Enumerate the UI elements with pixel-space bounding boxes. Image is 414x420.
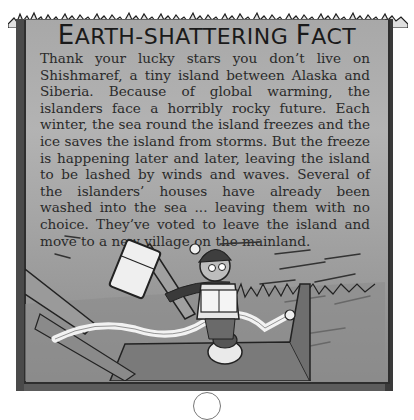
fact-paragraph: Thank your lucky stars you don’t live on… — [40, 50, 370, 249]
box-title: EARTH-SHATTERING FACT — [0, 20, 414, 50]
storm-cartoon-illustration — [25, 224, 385, 381]
title-initial: E — [58, 20, 75, 50]
title-tail: ACT — [311, 24, 356, 49]
title-part: ARTH-SHATTERING — [75, 24, 296, 49]
title-initial-2: F — [296, 20, 311, 50]
left-post — [16, 19, 24, 391]
page-number-bubble — [193, 392, 221, 420]
